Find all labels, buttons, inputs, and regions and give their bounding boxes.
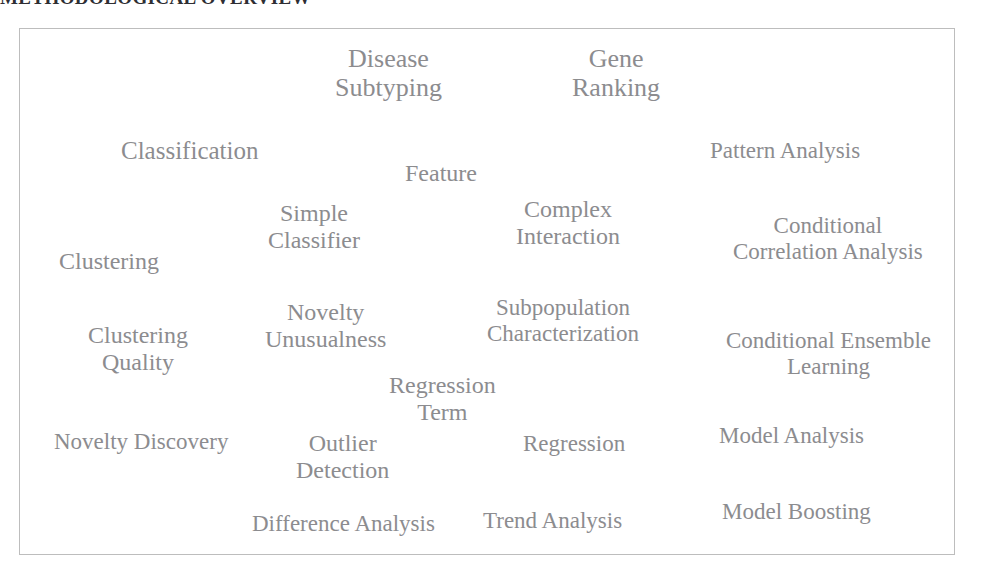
- term-line: Model Boosting: [722, 499, 871, 525]
- term-regression-term: RegressionTerm: [389, 372, 496, 426]
- term-line: Regression: [523, 431, 625, 457]
- term-clustering: Clustering: [59, 248, 159, 275]
- term-classification: Classification: [121, 137, 258, 165]
- term-line: Model Analysis: [719, 423, 864, 449]
- term-feature: Feature: [405, 160, 477, 187]
- term-line: Subtyping: [335, 73, 442, 102]
- term-line: Regression: [389, 372, 496, 399]
- term-conditional-correlation-analysis: ConditionalCorrelation Analysis: [733, 213, 923, 265]
- term-line: Characterization: [487, 321, 639, 347]
- term-pattern-analysis: Pattern Analysis: [710, 138, 860, 164]
- term-line: Gene: [572, 44, 660, 73]
- term-line: Ranking: [572, 73, 660, 102]
- section-heading: METHODOLOGICAL OVERVIEW: [0, 0, 311, 9]
- term-conditional-ensemble-learning: Conditional EnsembleLearning: [726, 328, 931, 380]
- term-line: Conditional: [733, 213, 923, 239]
- term-line: Detection: [296, 457, 389, 484]
- term-model-analysis: Model Analysis: [719, 423, 864, 449]
- term-line: Clustering: [59, 248, 159, 275]
- term-line: Term: [389, 399, 496, 426]
- term-trend-analysis: Trend Analysis: [483, 508, 622, 534]
- term-cloud-panel: DiseaseSubtypingGeneRankingClassificatio…: [19, 28, 955, 555]
- term-line: Feature: [405, 160, 477, 187]
- term-line: Novelty: [265, 299, 386, 326]
- term-line: Interaction: [516, 223, 620, 250]
- section-heading-clip: METHODOLOGICAL OVERVIEW: [0, 0, 989, 11]
- term-complex-interaction: ComplexInteraction: [516, 196, 620, 250]
- term-outlier-detection: OutlierDetection: [296, 430, 389, 484]
- term-subpopulation-characterization: SubpopulationCharacterization: [487, 295, 639, 347]
- term-novelty-discovery: Novelty Discovery: [54, 429, 228, 455]
- term-line: Difference Analysis: [252, 511, 435, 537]
- term-line: Complex: [516, 196, 620, 223]
- term-line: Novelty Discovery: [54, 429, 228, 455]
- term-clustering-quality: ClusteringQuality: [88, 322, 188, 376]
- term-novelty-unusualness: NoveltyUnusualness: [265, 299, 386, 353]
- term-difference-analysis: Difference Analysis: [252, 511, 435, 537]
- term-gene-ranking: GeneRanking: [572, 44, 660, 102]
- term-line: Correlation Analysis: [733, 239, 923, 265]
- term-line: Subpopulation: [487, 295, 639, 321]
- term-line: Quality: [88, 349, 188, 376]
- term-line: Outlier: [296, 430, 389, 457]
- term-line: Unusualness: [265, 326, 386, 353]
- term-line: Trend Analysis: [483, 508, 622, 534]
- term-line: Classification: [121, 137, 258, 165]
- term-line: Clustering: [88, 322, 188, 349]
- term-line: Conditional Ensemble: [726, 328, 931, 354]
- term-line: Disease: [335, 44, 442, 73]
- term-line: Simple: [268, 200, 360, 227]
- term-regression: Regression: [523, 431, 625, 457]
- term-line: Classifier: [268, 227, 360, 254]
- term-line: Pattern Analysis: [710, 138, 860, 164]
- term-disease-subtyping: DiseaseSubtyping: [335, 44, 442, 102]
- term-simple-classifier: SimpleClassifier: [268, 200, 360, 254]
- term-line: Learning: [726, 354, 931, 380]
- term-model-boosting: Model Boosting: [722, 499, 871, 525]
